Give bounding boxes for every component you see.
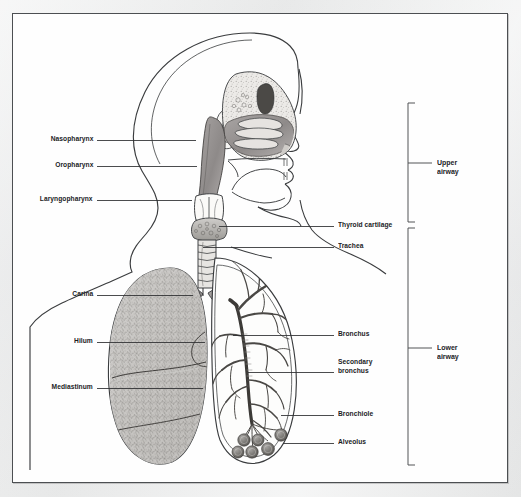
label-carina: Carina xyxy=(72,290,93,299)
label-alveolus: Alveolus xyxy=(338,438,366,447)
figure-stage: NasopharynxOropharynxLaryngopharynxCarin… xyxy=(0,0,521,497)
bracket-label-upper-airway: Upper airway xyxy=(437,158,459,177)
left-lung xyxy=(108,266,220,472)
right-lung xyxy=(211,257,296,463)
label-trachea: Trachea xyxy=(338,242,363,251)
sphenoid-sinus xyxy=(257,84,274,114)
label-thyroid-cartilage: Thyroid cartilage xyxy=(338,221,392,230)
label-laryngopharynx: Laryngopharynx xyxy=(40,195,93,204)
bracket-label-lower-airway: Lower airway xyxy=(437,343,459,362)
label-bronchus: Bronchus xyxy=(338,330,369,339)
turbinates xyxy=(234,118,283,149)
bracket-lower-airway xyxy=(408,228,415,465)
soft-palate xyxy=(228,161,238,177)
label-oropharynx: Oropharynx xyxy=(55,161,93,170)
label-bronchiole: Bronchiole xyxy=(338,410,373,419)
oral-cavity xyxy=(228,158,287,203)
label-hilum: Hilum xyxy=(74,337,93,346)
thyroid-cartilage-gland xyxy=(191,218,227,241)
airway-brackets xyxy=(408,103,432,465)
label-mediastinum: Mediastinum xyxy=(52,383,93,392)
tongue xyxy=(232,169,286,190)
label-secondary-bronchus: Secondary bronchus xyxy=(338,358,372,375)
label-nasopharynx: Nasopharynx xyxy=(50,135,93,144)
bracket-upper-airway xyxy=(408,103,415,222)
respiratory-anatomy-illustration xyxy=(0,0,521,497)
